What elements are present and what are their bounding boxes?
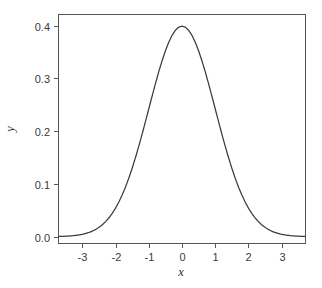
x-axis-title: x bbox=[177, 265, 184, 279]
x-tick-label: 0 bbox=[179, 251, 185, 263]
y-tick-label: 0.3 bbox=[35, 73, 50, 85]
x-tick-label: 1 bbox=[212, 251, 218, 263]
y-axis-title: y bbox=[3, 126, 17, 134]
chart-figure: -3-2-10123 0.00.10.20.30.4 x y bbox=[0, 0, 322, 288]
x-tick-label: 3 bbox=[279, 251, 285, 263]
x-tick-label: 2 bbox=[245, 251, 251, 263]
y-tick-label: 0.4 bbox=[35, 21, 50, 33]
x-tick-label: -3 bbox=[78, 251, 88, 263]
figure-background bbox=[0, 0, 322, 288]
x-tick-label: -2 bbox=[112, 251, 122, 263]
plot-canvas: -3-2-10123 0.00.10.20.30.4 x y bbox=[0, 0, 322, 288]
y-tick-label: 0.0 bbox=[35, 232, 50, 244]
x-tick-label: -1 bbox=[145, 251, 155, 263]
y-tick-label: 0.1 bbox=[35, 179, 50, 191]
y-tick-label: 0.2 bbox=[35, 126, 50, 138]
